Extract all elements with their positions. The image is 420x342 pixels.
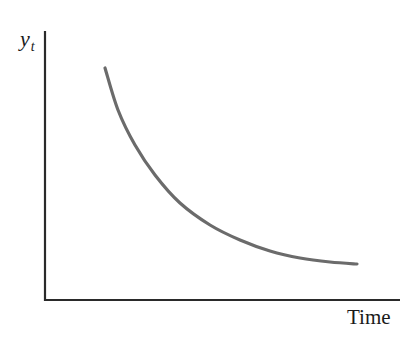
y-axis-label-subscript: t — [31, 39, 35, 54]
y-axis-label: yt — [20, 28, 34, 50]
chart-canvas — [0, 0, 420, 342]
y-axis-label-main: y — [20, 26, 30, 51]
decay-curve — [105, 68, 357, 264]
x-axis-label: Time — [347, 307, 391, 328]
